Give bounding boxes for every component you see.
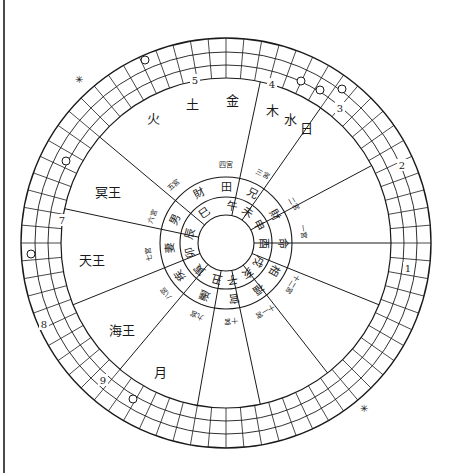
grid-tick xyxy=(156,50,170,88)
palace-label: 疾 xyxy=(171,267,189,284)
earthly-branch-label: 午 xyxy=(226,199,239,214)
house-number-label: 四宮 xyxy=(219,160,233,169)
earthly-branch-label: 申 xyxy=(250,218,267,234)
grid-tick xyxy=(296,57,313,93)
planet-label: 木 xyxy=(266,103,279,118)
palace-label: 妻 xyxy=(163,242,177,254)
grid-tick xyxy=(390,225,430,228)
planet-label: 冥王 xyxy=(95,185,121,200)
grid-tick xyxy=(390,257,430,260)
earthly-branch-label: 辰 xyxy=(183,226,198,240)
grid-tick xyxy=(376,313,412,330)
horoscope-wheel: 午未申酉戌亥子丑寅卯辰巳命相福官遷疾妻男財田兄財一宮十二宮十一宮十宮九宮八宮七宮… xyxy=(0,0,450,473)
house-number-label: 五宮 xyxy=(165,177,181,193)
planet-circle-icon xyxy=(141,56,149,64)
grid-tick xyxy=(255,405,262,444)
earthly-branch-label: 未 xyxy=(239,204,255,221)
planet-circle-icon xyxy=(129,395,137,403)
grid-tick xyxy=(58,338,91,361)
palace-label: 男 xyxy=(167,212,183,227)
grid-tick xyxy=(361,125,394,148)
house-number-label: 九宮 xyxy=(188,309,204,323)
planet-label: 日 xyxy=(300,121,313,136)
grid-tick xyxy=(108,75,131,108)
planet-label: 天王 xyxy=(79,253,105,268)
grid-tick xyxy=(385,286,424,296)
chart-frame: 午未申酉戌亥子丑寅卯辰巳命相福官遷疾妻男財田兄財一宮十二宮十一宮十宮九宮八宮七宮… xyxy=(0,0,450,473)
grid-tick xyxy=(156,398,170,436)
earthly-branch-label: 卯 xyxy=(183,246,198,260)
grid-tick xyxy=(58,125,91,148)
planet-circle-icon xyxy=(316,86,324,94)
degree-number: 1 xyxy=(405,263,411,274)
grid-tick xyxy=(173,45,183,84)
palace-label: 田 xyxy=(221,181,232,194)
grid-tick xyxy=(381,299,419,313)
grid-tick xyxy=(381,173,419,187)
degree-number: 3 xyxy=(337,103,343,114)
grid-tick xyxy=(33,299,71,313)
grid-tick xyxy=(282,398,296,436)
grid-tick xyxy=(255,41,262,80)
palace-label: 遷 xyxy=(197,287,212,303)
earthly-branch-label: 戌 xyxy=(250,253,267,269)
planet-circle-icon xyxy=(62,157,70,165)
planet-label: 月 xyxy=(154,365,167,380)
degree-number: 4 xyxy=(269,79,275,90)
house-number-label: 十一宮 xyxy=(254,302,277,320)
grid-tick xyxy=(28,190,67,200)
degree-number: 5 xyxy=(192,75,198,86)
grid-tick xyxy=(22,257,62,260)
grid-tick xyxy=(173,402,183,441)
planet-circle-icon xyxy=(338,85,346,93)
planet-label: 海王 xyxy=(109,323,135,338)
planet-label: 水 xyxy=(284,112,297,127)
grid-tick xyxy=(269,402,279,441)
house-number-label: 三宮 xyxy=(255,166,272,181)
page-border-line xyxy=(3,0,5,473)
palace-label: 福 xyxy=(250,280,267,298)
grid-tick xyxy=(282,50,296,88)
grid-tick xyxy=(28,286,67,296)
house-number-label: 十宮 xyxy=(224,316,239,326)
planet-label: 火 xyxy=(147,111,160,126)
grid-tick xyxy=(208,407,211,447)
palace-label: 財 xyxy=(191,184,207,202)
house-number-label: 十二宮 xyxy=(283,273,302,296)
planet-label: 金 xyxy=(226,93,239,108)
grid-tick xyxy=(321,378,344,411)
grid-tick xyxy=(388,207,427,214)
palace-label: 官 xyxy=(227,291,240,306)
house-number-label: 八宮 xyxy=(158,285,174,302)
grid-tick xyxy=(240,39,243,79)
planet-circle-icon xyxy=(27,250,35,258)
earthly-branch-label: 巳 xyxy=(197,204,213,221)
house-cusp-line xyxy=(252,253,379,304)
planet-label: 土 xyxy=(186,97,199,112)
degree-number: 8 xyxy=(41,319,47,330)
grid-tick xyxy=(40,156,76,173)
palace-label: 命 xyxy=(276,238,290,249)
grid-tick xyxy=(139,393,156,429)
degree-number: 2 xyxy=(399,160,405,171)
ring-hole xyxy=(198,215,254,271)
earthly-branch-label: 丑 xyxy=(209,271,223,286)
grid-tick xyxy=(208,39,211,79)
star-icon: ✳ xyxy=(75,74,83,85)
grid-tick xyxy=(33,173,71,187)
earthly-branch-label: 酉 xyxy=(257,238,270,249)
grid-tick xyxy=(24,207,63,214)
grid-tick xyxy=(385,190,424,200)
grid-tick xyxy=(296,393,313,429)
palace-label: 兄 xyxy=(244,185,260,202)
house-cusp-line xyxy=(243,265,327,373)
degree-number: 9 xyxy=(100,375,106,386)
house-number-label: 六宮 xyxy=(146,208,159,224)
grid-tick xyxy=(240,407,243,447)
earthly-branch-label: 子 xyxy=(226,272,239,287)
planet-circle-icon xyxy=(297,77,305,85)
house-number-label: 七宮 xyxy=(143,246,154,261)
grid-tick xyxy=(24,272,63,279)
grid-tick xyxy=(22,225,62,228)
grid-tick xyxy=(108,378,131,411)
